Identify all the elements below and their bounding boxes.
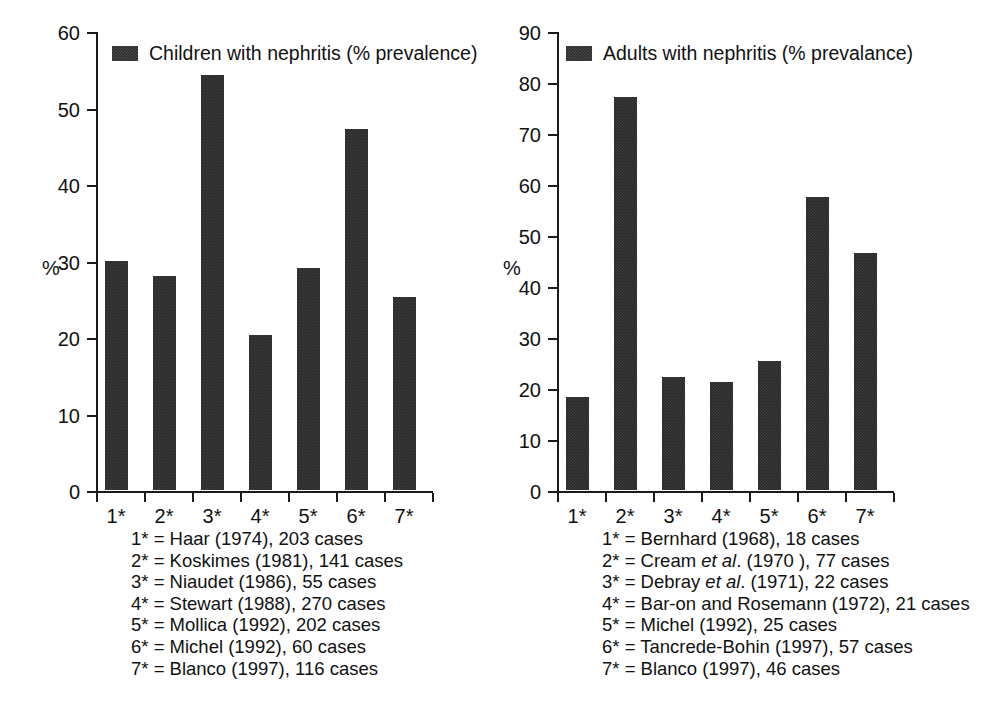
y-axis-tick-label: 40 bbox=[58, 176, 80, 196]
footnote-item: 5* = Mollica (1992), 202 cases bbox=[131, 614, 403, 636]
x-axis-tick-label: 3* bbox=[203, 506, 222, 526]
x-axis-tick bbox=[605, 493, 607, 502]
footnote-citation-italic: et al bbox=[701, 550, 736, 571]
y-axis-tick: 10 bbox=[548, 440, 557, 442]
y-axis-tick: 40 bbox=[548, 287, 557, 289]
bar bbox=[806, 197, 829, 490]
plot-area-children: 01020304050601*2*3*4*5*6*7* bbox=[96, 32, 432, 492]
y-axis-tick-label: 20 bbox=[58, 329, 80, 349]
plot-area-adults: 01020304050607080901*2*3*4*5*6*7* bbox=[557, 32, 893, 492]
footnote-item: 7* = Blanco (1997), 46 cases bbox=[602, 658, 970, 680]
bar bbox=[710, 382, 733, 490]
footnote-item: 1* = Bernhard (1968), 18 cases bbox=[602, 528, 970, 550]
y-axis-tick-label: 20 bbox=[519, 380, 541, 400]
footnote-item: 7* = Blanco (1997), 116 cases bbox=[131, 658, 403, 680]
y-axis-tick-label: 50 bbox=[519, 227, 541, 247]
x-axis-tick bbox=[797, 493, 799, 502]
y-axis-tick: 0 bbox=[87, 491, 96, 493]
footnote-item: 6* = Tancrede-Bohin (1997), 57 cases bbox=[602, 636, 970, 658]
bar bbox=[566, 397, 589, 490]
bar bbox=[758, 361, 781, 490]
y-axis-tick-label: 10 bbox=[519, 431, 541, 451]
x-axis-tick bbox=[432, 493, 434, 502]
y-axis-tick: 60 bbox=[548, 185, 557, 187]
footnote-item: 1* = Haar (1974), 203 cases bbox=[131, 528, 403, 550]
y-axis-tick-label: 0 bbox=[69, 482, 80, 502]
x-axis-tick bbox=[288, 493, 290, 502]
x-axis-line bbox=[557, 491, 894, 493]
footnote-item: 3* = Niaudet (1986), 55 cases bbox=[131, 571, 403, 593]
figure-nephritis-prevalence: Children with nephritis (% prevalence) %… bbox=[0, 0, 987, 727]
footnote-prefix: 2* = Cream bbox=[602, 550, 701, 571]
chart-panel-adults: Adults with nephritis (% prevalance) % 0… bbox=[493, 0, 986, 727]
chart-panel-children: Children with nephritis (% prevalence) %… bbox=[0, 0, 493, 727]
bar bbox=[614, 97, 637, 490]
x-axis-tick bbox=[240, 493, 242, 502]
x-axis-tick-label: 2* bbox=[616, 506, 635, 526]
x-axis-tick-label: 4* bbox=[712, 506, 731, 526]
y-axis-tick: 90 bbox=[548, 32, 557, 34]
x-axis-tick-label: 6* bbox=[808, 506, 827, 526]
x-axis-tick bbox=[701, 493, 703, 502]
y-axis-tick-label: 0 bbox=[530, 482, 541, 502]
x-axis-tick-label: 2* bbox=[155, 506, 174, 526]
footnote-prefix: 3* = Debray bbox=[602, 571, 705, 592]
y-axis-tick-label: 70 bbox=[519, 125, 541, 145]
y-axis-tick: 30 bbox=[87, 262, 96, 264]
footnote-item: 2* = Koskimes (1981), 141 cases bbox=[131, 550, 403, 572]
x-axis-tick-label: 5* bbox=[760, 506, 779, 526]
bar bbox=[201, 75, 224, 490]
y-axis-tick: 70 bbox=[548, 134, 557, 136]
footnote-citation-italic: et al bbox=[705, 571, 740, 592]
bar bbox=[662, 377, 685, 490]
y-axis-tick: 0 bbox=[548, 491, 557, 493]
footnote-item: 3* = Debray et al. (1971), 22 cases bbox=[602, 571, 970, 593]
x-axis-tick-label: 1* bbox=[568, 506, 587, 526]
y-axis-tick-label: 30 bbox=[58, 253, 80, 273]
y-axis-tick: 60 bbox=[87, 32, 96, 34]
y-axis-line bbox=[96, 32, 98, 493]
footnotes-adults: 1* = Bernhard (1968), 18 cases2* = Cream… bbox=[602, 528, 970, 679]
y-axis-tick-label: 40 bbox=[519, 278, 541, 298]
x-axis-tick bbox=[192, 493, 194, 502]
y-axis-tick: 20 bbox=[548, 389, 557, 391]
footnote-item: 6* = Michel (1992), 60 cases bbox=[131, 636, 403, 658]
footnote-suffix: . (1970 ), 77 cases bbox=[736, 550, 889, 571]
y-axis-tick-label: 60 bbox=[519, 176, 541, 196]
x-axis-tick bbox=[336, 493, 338, 502]
x-axis-tick bbox=[749, 493, 751, 502]
x-axis-tick-label: 5* bbox=[299, 506, 318, 526]
footnote-item: 4* = Stewart (1988), 270 cases bbox=[131, 593, 403, 615]
bar bbox=[345, 129, 368, 490]
x-axis-line bbox=[96, 491, 433, 493]
x-axis-tick-label: 6* bbox=[347, 506, 366, 526]
y-axis-tick: 30 bbox=[548, 338, 557, 340]
y-axis-title-adults: % bbox=[503, 258, 521, 278]
x-axis-tick bbox=[845, 493, 847, 502]
y-axis-tick: 50 bbox=[87, 109, 96, 111]
y-axis-tick: 50 bbox=[548, 236, 557, 238]
bar bbox=[105, 261, 128, 491]
x-axis-tick-label: 7* bbox=[856, 506, 875, 526]
footnotes-children: 1* = Haar (1974), 203 cases2* = Koskimes… bbox=[131, 528, 403, 679]
footnote-item: 2* = Cream et al. (1970 ), 77 cases bbox=[602, 550, 970, 572]
y-axis-tick-label: 90 bbox=[519, 23, 541, 43]
x-axis-tick bbox=[144, 493, 146, 502]
y-axis-tick: 80 bbox=[548, 83, 557, 85]
x-axis-tick-label: 1* bbox=[107, 506, 126, 526]
x-axis-tick bbox=[653, 493, 655, 502]
x-axis-tick bbox=[557, 493, 559, 502]
bar bbox=[854, 253, 877, 490]
footnote-item: 5* = Michel (1992), 25 cases bbox=[602, 614, 970, 636]
y-axis-tick-label: 60 bbox=[58, 23, 80, 43]
footnote-item: 4* = Bar-on and Rosemann (1972), 21 case… bbox=[602, 593, 970, 615]
x-axis-tick-label: 4* bbox=[251, 506, 270, 526]
x-axis-tick bbox=[96, 493, 98, 502]
x-axis-tick bbox=[893, 493, 895, 502]
y-axis-tick: 10 bbox=[87, 415, 96, 417]
bar bbox=[297, 268, 320, 490]
x-axis-tick bbox=[384, 493, 386, 502]
footnote-suffix: . (1971), 22 cases bbox=[740, 571, 888, 592]
y-axis-tick-label: 50 bbox=[58, 100, 80, 120]
y-axis-tick-label: 10 bbox=[58, 406, 80, 426]
